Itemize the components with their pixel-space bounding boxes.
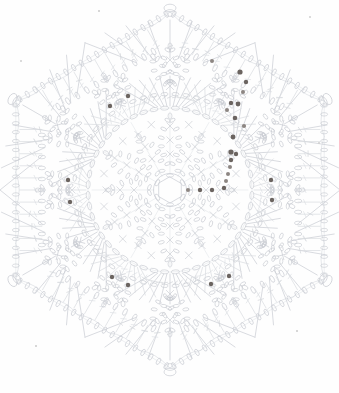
chain-link: [127, 220, 132, 227]
chain-link: [151, 307, 158, 311]
chain-link: [77, 153, 83, 161]
chain-link: [187, 164, 194, 170]
center-ring-group: [154, 174, 187, 207]
chain-link: [294, 210, 301, 214]
single-crochet-symbol: [101, 170, 108, 177]
motif-diagram: [0, 0, 339, 393]
chain-link: [197, 150, 203, 154]
double-crochet-symbol: [246, 224, 278, 229]
chain-link: [74, 91, 81, 99]
stitch-line: [280, 263, 305, 293]
chain-link: [257, 153, 263, 161]
chain-link: [201, 175, 206, 182]
chain-link: [193, 158, 200, 163]
double-crochet-symbol: [137, 85, 145, 113]
chain-link: [216, 205, 223, 212]
single-crochet-symbol: [233, 170, 240, 177]
double-crochet-symbol: [246, 150, 278, 155]
chain-link: [58, 193, 61, 199]
single-crochet-symbol: [53, 250, 62, 259]
chain-link: [209, 220, 214, 227]
bead-marker-dot: [210, 188, 214, 192]
chain-link: [209, 201, 215, 208]
single-crochet-symbol: [233, 203, 240, 210]
chain-link: [210, 93, 216, 97]
double-crochet-symbol: [276, 84, 287, 103]
double-crochet-symbol: [120, 273, 155, 293]
apex-picot: [164, 368, 176, 376]
bead-marker-dot: [269, 178, 273, 182]
stitch-line: [126, 321, 153, 354]
stitch-line: [234, 301, 245, 320]
chain-link: [151, 69, 158, 73]
stitch-line: [53, 277, 64, 296]
stitch-line: [121, 319, 127, 320]
chain-link: [139, 280, 147, 285]
stitch-line: [0, 156, 42, 190]
bead-marker-dot: [228, 165, 232, 169]
bead-marker-dot: [224, 179, 228, 183]
chain-link: [188, 172, 195, 178]
chain-link: [119, 180, 124, 187]
double-crochet-symbol: [0, 190, 42, 224]
stitch-line: [0, 190, 42, 224]
chain-link: [122, 308, 129, 316]
chain-link: [220, 291, 227, 297]
chain-link: [198, 194, 202, 201]
double-crochet-symbol: [104, 95, 109, 135]
chain-link: [284, 248, 291, 254]
stitch-line: [255, 85, 261, 86]
stitch-line: [213, 48, 224, 67]
stitch-line: [179, 322, 193, 359]
stitch-line: [298, 190, 339, 224]
chain-link: [185, 232, 191, 239]
petal-tip: [291, 240, 297, 244]
chain-link: [125, 201, 131, 208]
chain-link: [146, 209, 153, 215]
single-crochet-symbol: [119, 236, 126, 243]
stitch-line: [50, 70, 65, 110]
stitch-line: [131, 325, 137, 326]
stitch-line: [255, 289, 266, 308]
stitch-line: [213, 313, 224, 332]
stitch-line: [13, 125, 52, 132]
single-crochet-symbol: [198, 169, 204, 175]
double-crochet-symbol: [298, 151, 320, 156]
chain-link: [176, 145, 182, 148]
chain-link: [172, 61, 178, 68]
mid-petal: [102, 150, 151, 182]
chain-link: [74, 280, 81, 288]
double-crochet-symbol: [84, 66, 95, 85]
chain-link: [158, 158, 165, 163]
double-crochet-symbol: [105, 54, 116, 73]
bead-marker-dot: [228, 149, 233, 154]
chain-link: [38, 221, 45, 225]
stitch-line: [269, 277, 273, 325]
stitch-line: [187, 26, 214, 59]
chain-link: [158, 217, 165, 222]
stitch-line: [126, 42, 137, 61]
chain-link: [158, 240, 165, 245]
single-crochet-symbol: [185, 218, 191, 224]
chain-link: [119, 223, 123, 229]
stitch-line: [287, 103, 293, 104]
chain-link: [232, 288, 238, 292]
chain-link: [102, 88, 108, 92]
petal-tip: [121, 301, 125, 307]
stitch-line: [187, 321, 214, 354]
stitch-line: [219, 263, 221, 268]
double-crochet-symbol: [95, 301, 106, 320]
single-crochet-symbol: [210, 162, 216, 168]
chain-link: [58, 201, 62, 208]
chain-link: [201, 199, 206, 206]
stitch-line: [137, 267, 145, 295]
chain-link: [212, 308, 219, 316]
chain-link: [201, 157, 207, 164]
stitch-line: [35, 263, 60, 293]
chain-link: [111, 162, 118, 168]
chain-link: [145, 172, 152, 178]
chain-link: [146, 164, 153, 170]
chain-link: [140, 217, 147, 222]
double-crochet-symbol: [63, 150, 95, 155]
chain-link: [117, 168, 124, 175]
